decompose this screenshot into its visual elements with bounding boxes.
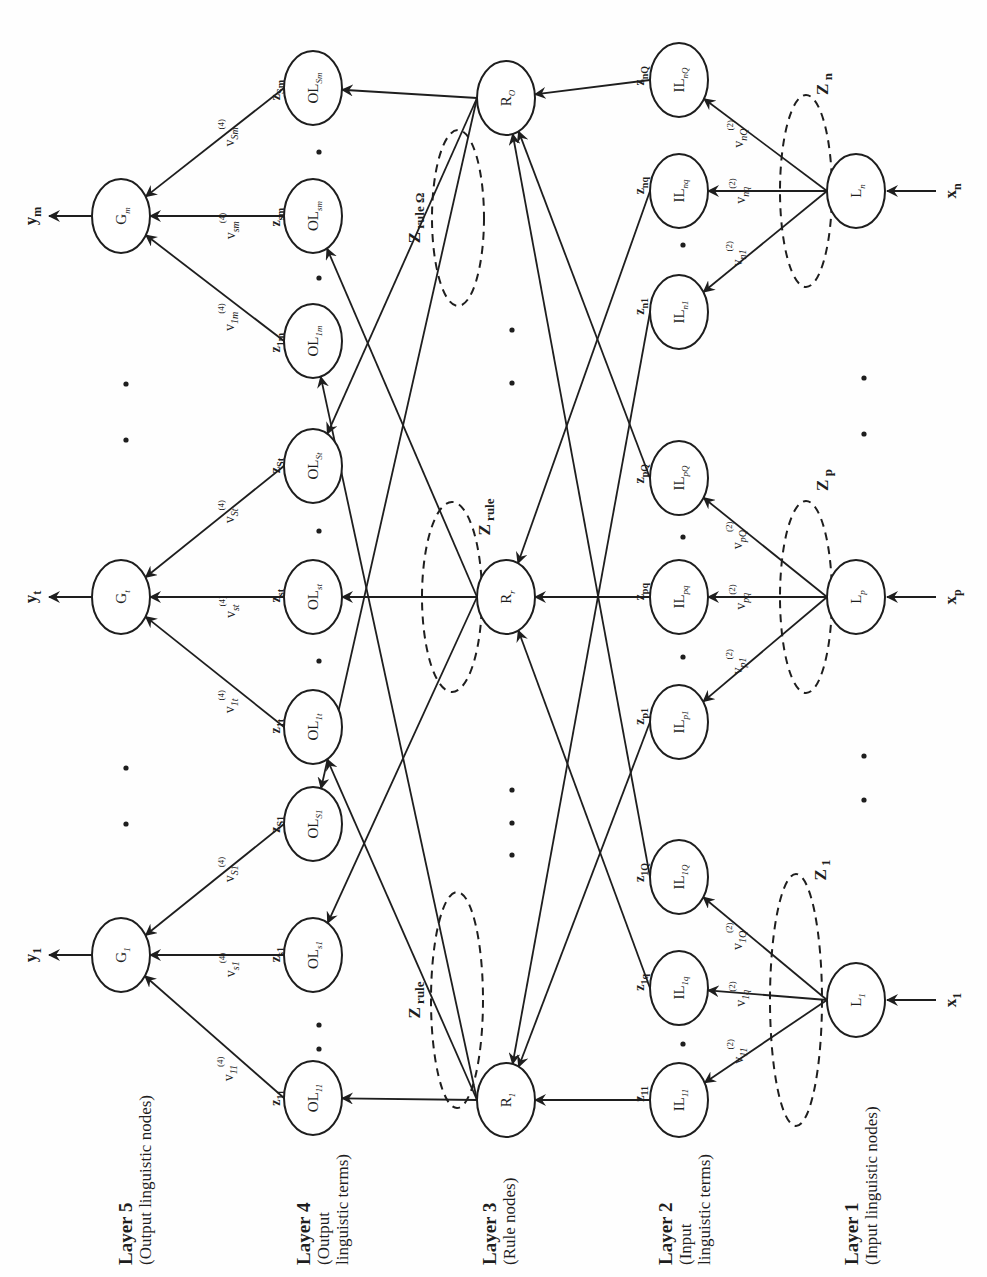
node-Lp: Lp [827, 560, 885, 634]
node-OLst: OLst [284, 560, 342, 634]
connection-arrow [342, 90, 477, 98]
ellipsis-dot [509, 380, 514, 385]
connection-arrow [146, 617, 284, 727]
connection-arrow [513, 134, 650, 877]
grouping-label: Z rule [405, 981, 427, 1018]
ellipsis-dot [861, 375, 866, 380]
layer-description: (Rule nodes) [500, 1178, 519, 1265]
ellipsis-dot [861, 431, 866, 436]
input-label: xn [941, 183, 964, 199]
node-Gm: Gm [92, 179, 150, 253]
node-IL1Q: IL1Q [650, 840, 708, 914]
ellipsis-dot [316, 275, 321, 280]
layer-caption: Layer 2(Inputlinguistic terms) [655, 1154, 714, 1265]
z-label: znQ [632, 66, 650, 86]
z-label: zpQ [632, 464, 650, 484]
ellipsis-dot [861, 797, 866, 802]
network-svg: Z 1Z pZ nZ ruleZ ruleZ rule Ω G1GtGmOL11… [0, 0, 987, 1277]
connection-arrow [518, 191, 650, 563]
node-Gt: Gt [92, 560, 150, 634]
ellipsis-dot [509, 820, 514, 825]
weight-label: v1m(4) [216, 303, 240, 331]
connection-arrow [705, 1000, 827, 1083]
connection-arrow [703, 191, 827, 292]
weight-label: vst(4) [217, 596, 241, 618]
connection-arrow [703, 597, 827, 702]
ellipsis-dot [316, 1022, 321, 1027]
connection-arrow [704, 498, 827, 597]
z-label: z1m [268, 332, 286, 352]
connection-arrow [145, 976, 284, 1098]
grouping-label: Z 1 [811, 859, 833, 880]
node-OL1t: OL1t [284, 690, 342, 764]
ellipsis-dot [680, 242, 685, 247]
ellipsis-dot [316, 149, 321, 154]
output-label: y1 [21, 948, 44, 963]
layer-description: (Input linguistic nodes) [862, 1106, 881, 1265]
node-OL11: OL11 [284, 1061, 342, 1135]
ellipsis-dot [861, 753, 866, 758]
node-OLSm: OLSm [284, 51, 342, 125]
layer-caption: Layer 1(Input linguistic nodes) [841, 1106, 881, 1265]
layer-title: Layer 1 [841, 1203, 862, 1265]
node-G1: G1 [92, 918, 150, 992]
ellipsis-dot [680, 1041, 685, 1046]
input-label: xp [941, 589, 964, 605]
nodes: G1GtGmOL11OLs1OLS1OL1tOLstOLStOL1mOLsmOL… [92, 43, 885, 1137]
ellipsis-dot [123, 437, 128, 442]
z-label: z1Q [632, 863, 650, 882]
layer-description: (Output linguistic nodes) [136, 1095, 155, 1265]
ellipsis-dot [509, 852, 514, 857]
layer-caption: Layer 4(Outputlinguistic terms) [293, 1154, 352, 1265]
weight-label: v1t(4) [216, 690, 240, 713]
ellipsis-dot [316, 1046, 321, 1051]
layer-title: Layer 5 [115, 1203, 136, 1265]
ellipsis-dot [509, 327, 514, 332]
weight-label: vp1(2) [724, 649, 748, 675]
node-Ln: Ln [827, 154, 885, 228]
weight-label: vn1(2) [724, 241, 748, 266]
grouping-ellipse [770, 874, 822, 1126]
ellipsis-dot [680, 654, 685, 659]
layer-description: (Input [676, 1223, 695, 1265]
weight-label: vs1(4) [217, 953, 241, 977]
ellipsis-dot [123, 381, 128, 386]
output-label: yt [21, 591, 44, 604]
node-L1: L1 [827, 963, 885, 1037]
output-label: ym [21, 207, 44, 226]
weight-label: v11(4) [215, 1057, 239, 1082]
node-ILnQ: ILnQ [650, 43, 708, 117]
layer-title: Layer 2 [655, 1203, 676, 1265]
grouping-label: Z n [813, 72, 835, 95]
ellipsis-dot [316, 658, 321, 663]
node-OLS1: OLS1 [284, 787, 342, 861]
connection-arrow [321, 377, 477, 1100]
connection-arrow [708, 990, 827, 1000]
connection-arrow [327, 759, 477, 1100]
connection-arrow [327, 98, 477, 434]
node-RO: RO [477, 61, 535, 135]
layer-caption: Layer 5(Output linguistic nodes) [115, 1095, 155, 1265]
node-ILnq: ILnq [650, 154, 708, 228]
z-label: znq [632, 177, 650, 195]
layer-title: Layer 3 [479, 1203, 500, 1265]
z-label: z1q [632, 974, 650, 991]
connection-arrow [328, 597, 477, 923]
node-ILn1: ILn1 [650, 275, 708, 349]
node-IL11: IL11 [650, 1063, 708, 1137]
grouping-label: Z rule [475, 498, 497, 535]
input-label: x1 [941, 993, 964, 1008]
connection-arrow [327, 248, 477, 597]
z-label: zn1 [632, 298, 650, 315]
connection-arrow [704, 99, 827, 191]
z-label: zp1 [632, 708, 650, 725]
layer-description: linguistic terms) [695, 1154, 714, 1265]
ellipsis-dot [123, 821, 128, 826]
connection-arrow [519, 131, 650, 478]
connection-arrow [146, 235, 284, 341]
layer-description: linguistic terms) [333, 1154, 352, 1265]
node-R1: R1 [477, 1063, 535, 1137]
weight-label: v1q(2) [727, 981, 751, 1007]
z-label: zS1 [268, 816, 286, 833]
grouping-ellipse [432, 130, 484, 306]
